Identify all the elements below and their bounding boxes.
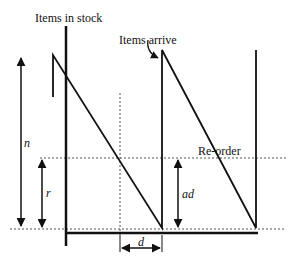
d-label: d	[138, 235, 145, 249]
stock-level-sawtooth	[53, 50, 256, 228]
arrival-label: Items arrive	[119, 33, 177, 47]
r-label: r	[46, 186, 51, 200]
inventory-diagram: Items in stock Items arrive Re-order n r…	[0, 0, 291, 264]
reorder-label: Re-order	[198, 144, 241, 158]
stock-axis-label: Items in stock	[35, 11, 102, 25]
n-label: n	[24, 136, 30, 150]
ad-label: ad	[182, 187, 195, 201]
